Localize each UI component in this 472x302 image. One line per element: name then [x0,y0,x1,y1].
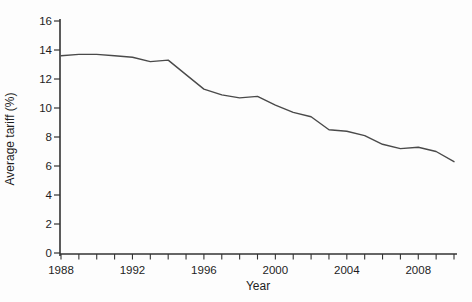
tariff-line [61,54,454,161]
axes [60,19,457,256]
y-axis-title: Average tariff (%) [3,93,17,186]
y-tick-label: 4 [46,189,53,201]
y-tick-label: 14 [39,44,52,56]
x-tick-label: 1992 [120,264,146,276]
x-tick-label: 2000 [263,264,289,276]
y-ticks [54,21,60,253]
y-tick-label: 12 [39,73,52,85]
x-tick-labels: 198819921996200020042008 [48,264,431,276]
y-tick-label: 2 [46,218,52,230]
y-tick-label: 6 [46,160,52,172]
tariff-line-chart-figure: 0246810121416 198819921996200020042008 Y… [0,0,472,302]
y-tick-label: 8 [46,131,52,143]
y-tick-label: 16 [39,15,52,27]
x-axis-title: Year [246,279,270,293]
data-series [61,54,454,161]
chart-svg: 0246810121416 198819921996200020042008 Y… [0,0,472,302]
x-tick-label: 1988 [48,264,74,276]
y-tick-label: 0 [46,247,52,259]
y-tick-labels: 0246810121416 [39,15,52,259]
x-tick-label: 2004 [334,264,360,276]
y-tick-label: 10 [39,102,52,114]
x-tick-label: 1996 [191,264,217,276]
x-ticks [61,254,454,260]
x-tick-label: 2008 [405,264,431,276]
